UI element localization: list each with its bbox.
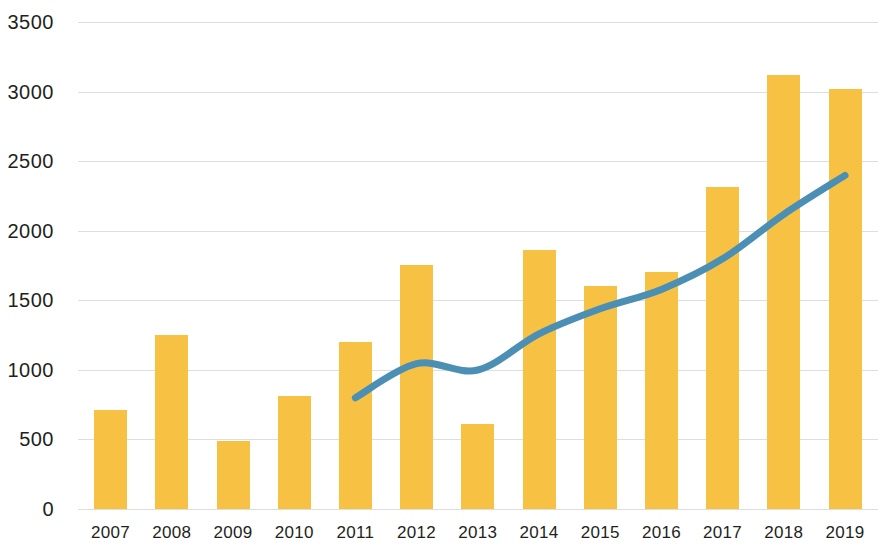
axis-baseline-zero	[78, 509, 878, 510]
y-tick-label-2000: 2000	[0, 221, 54, 241]
y-tick-label-3000: 3000	[0, 82, 54, 102]
bar-2018[interactable]	[767, 75, 800, 509]
bar-2009[interactable]	[217, 441, 250, 509]
gridline-2000	[78, 231, 878, 232]
bar-2011[interactable]	[339, 342, 372, 509]
y-tick-label-2500: 2500	[0, 151, 54, 171]
gridline-1000	[78, 370, 878, 371]
bar-line-combo-chart: 3500 3000 2500 2000 1500 1000 500 0 2007…	[0, 0, 880, 553]
bar-2019[interactable]	[829, 89, 862, 509]
gridline-1500	[78, 300, 878, 301]
bar-2010[interactable]	[278, 396, 311, 509]
y-tick-label-0: 0	[0, 499, 54, 519]
y-tick-label-3500: 3500	[0, 12, 54, 32]
bar-2007[interactable]	[94, 410, 127, 509]
y-tick-label-1000: 1000	[0, 360, 54, 380]
y-tick-label-500: 500	[0, 429, 54, 449]
gridline-3000	[78, 92, 878, 93]
gridline-2500	[78, 161, 878, 162]
bar-2012[interactable]	[400, 265, 433, 509]
x-tick-label-2019: 2019	[805, 524, 880, 541]
bar-2008[interactable]	[155, 335, 188, 509]
bar-2013[interactable]	[461, 424, 494, 509]
bar-2017[interactable]	[706, 187, 739, 509]
gridline-3500	[78, 22, 878, 23]
bar-2016[interactable]	[645, 272, 678, 509]
trend-line-layer	[0, 0, 880, 553]
bar-2015[interactable]	[584, 286, 617, 509]
plot-area: 3500 3000 2500 2000 1500 1000 500 0 2007…	[0, 0, 880, 553]
y-tick-label-1500: 1500	[0, 290, 54, 310]
bar-2014[interactable]	[523, 250, 556, 509]
